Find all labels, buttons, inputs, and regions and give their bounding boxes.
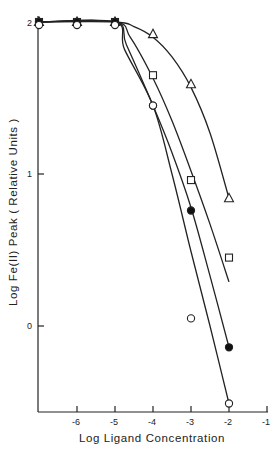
series-markers <box>35 17 234 407</box>
x-tick-label: -4 <box>148 417 156 427</box>
square-marker-icon <box>188 177 195 184</box>
triangle-marker-icon <box>225 193 234 202</box>
y-tick-label: 2 <box>27 18 32 28</box>
open-circle-marker-icon <box>111 21 118 28</box>
series-curves <box>39 20 229 404</box>
filled-circle-marker-icon <box>187 207 194 214</box>
triangle-marker-icon <box>149 29 158 38</box>
x-tick-label: -3 <box>186 417 194 427</box>
x-axis-title: Log Ligand Concentration <box>79 432 225 444</box>
open-circle-marker-icon <box>225 400 232 407</box>
y-tick-label: 0 <box>27 321 32 331</box>
x-tick-label: -5 <box>110 417 118 427</box>
x-tick-labels: -6 -5 -4 -3 -2 -1 <box>72 417 270 427</box>
filled-circle-marker-icon <box>225 344 232 351</box>
x-tick-label: -6 <box>72 417 80 427</box>
open-circle-marker-icon <box>149 102 156 109</box>
chart: -6 -5 -4 -3 -2 -1 0 1 2 Log Ligand Conce… <box>0 0 277 449</box>
open-circle-marker-icon <box>35 21 42 28</box>
series-line <box>39 20 229 347</box>
x-tick-label: -2 <box>224 417 232 427</box>
series-line <box>39 22 229 199</box>
series-line <box>39 20 229 404</box>
square-marker-icon <box>150 72 157 79</box>
y-tick-label: 1 <box>27 169 32 179</box>
open-circle-marker-icon <box>73 21 80 28</box>
x-tick-label: -1 <box>262 417 270 427</box>
open-circle-marker-icon <box>187 315 194 322</box>
y-axis-title: Log Fe(II) Peak ( Relative Units ) <box>7 118 19 306</box>
y-tick-labels: 0 1 2 <box>27 18 32 331</box>
square-marker-icon <box>226 254 233 261</box>
